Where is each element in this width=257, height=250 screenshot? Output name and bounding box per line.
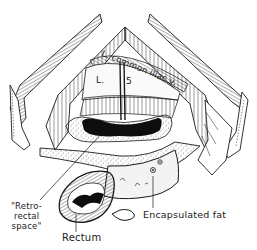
retrorectal-cavity [66,115,172,142]
label-retrorectal-space: "Retro- rectal space" [11,201,42,231]
label-vertebra-l: L. [96,75,104,85]
label-retrorectal-line3: space" [11,221,42,231]
label-retrorectal-line2: rectal [11,211,42,221]
label-encapsulated-fat: Encapsulated fat [143,210,226,220]
label-retrorectal-line1: "Retro- [11,201,42,211]
label-vertebra-5: 5 [126,76,132,86]
label-rectum: Rectum [62,233,101,243]
